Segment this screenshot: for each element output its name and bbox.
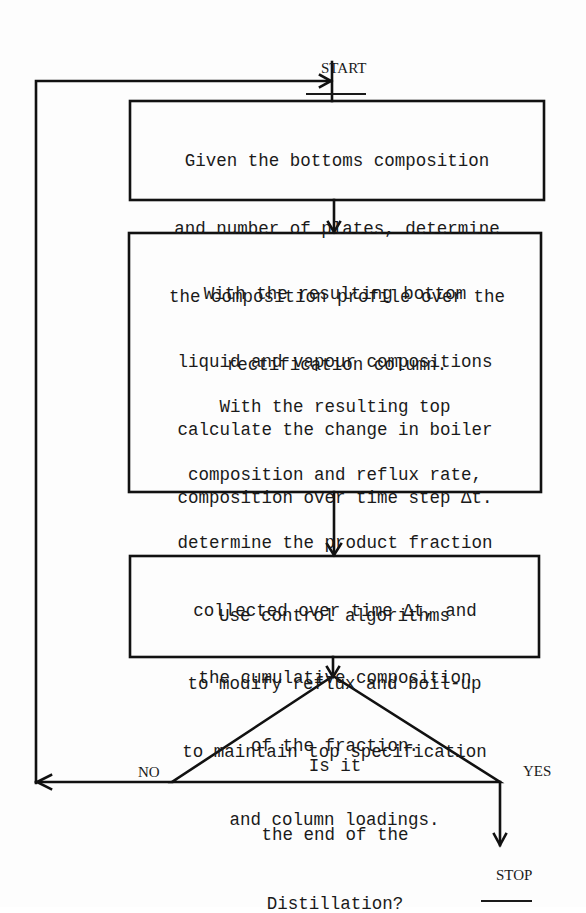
step-1-box: Given the bottoms composition and number… [130, 101, 544, 200]
decision-line: the end of the [235, 824, 435, 847]
step-2-box: With the resulting bottom liquid and vap… [129, 233, 541, 492]
step-3-box: Use control algorithms to modify reflux … [130, 556, 539, 657]
stop-label: STOP [496, 867, 532, 883]
step-3-line: to modify reflux and boil-up [130, 673, 539, 696]
yes-label: YES [523, 763, 551, 779]
decision-text: Is it the end of the Distillation? [235, 709, 435, 913]
decision-line: Distillation? [235, 893, 435, 913]
start-terminal: START [306, 44, 366, 95]
step-2-line: determine the product fraction [129, 532, 541, 555]
decision-line: Is it [235, 755, 435, 778]
step-3-line: Use control algorithms [130, 605, 539, 628]
step-2-line: composition and reflux rate, [129, 464, 541, 487]
stop-terminal: STOP [481, 851, 532, 902]
no-label: NO [138, 764, 160, 780]
step-2-line: With the resulting bottom [129, 283, 541, 306]
step-2-line: With the resulting top [129, 396, 541, 419]
step-1-line: Given the bottoms composition [130, 150, 544, 173]
start-label: START [321, 60, 366, 76]
